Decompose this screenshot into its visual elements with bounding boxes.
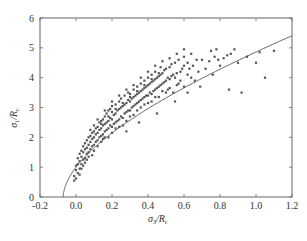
data-point: [102, 133, 104, 135]
data-point: [129, 96, 131, 98]
data-point: [93, 144, 95, 146]
data-point: [179, 71, 181, 73]
data-point: [138, 121, 140, 123]
data-point: [158, 72, 160, 74]
data-point: [107, 120, 109, 122]
data-point: [255, 62, 257, 64]
data-point: [199, 86, 201, 88]
data-point: [161, 72, 163, 74]
data-point: [111, 100, 113, 102]
data-point: [75, 169, 77, 171]
y-tick-label: 5: [29, 42, 34, 53]
data-point: [84, 162, 86, 164]
data-point: [120, 97, 122, 99]
data-point: [80, 156, 82, 158]
data-point: [176, 84, 178, 86]
data-point: [97, 126, 99, 128]
data-point: [147, 102, 149, 104]
data-point: [237, 62, 239, 64]
data-point: [86, 147, 88, 149]
data-point: [111, 105, 113, 107]
data-point: [88, 156, 90, 158]
data-point: [115, 112, 117, 114]
data-point: [75, 177, 77, 179]
y-tick-label: 6: [29, 13, 34, 24]
data-point: [169, 66, 171, 68]
data-point: [223, 57, 225, 59]
data-point: [196, 59, 198, 61]
data-point: [187, 91, 189, 93]
data-point: [97, 139, 99, 141]
data-point: [183, 56, 185, 58]
data-point: [106, 112, 108, 114]
data-point: [187, 62, 189, 64]
data-point: [133, 89, 135, 91]
x-tick-label: 1.0: [250, 200, 263, 211]
data-point: [122, 102, 124, 104]
data-point: [201, 59, 203, 61]
data-point: [161, 90, 163, 92]
data-point: [136, 109, 138, 111]
data-point: [183, 65, 185, 67]
data-point: [188, 68, 190, 70]
data-point: [178, 59, 180, 61]
data-point: [102, 118, 104, 120]
data-point: [197, 71, 199, 73]
data-point: [89, 135, 91, 137]
data-point: [86, 159, 88, 161]
data-point: [89, 129, 91, 131]
data-point: [169, 78, 171, 80]
data-point: [151, 100, 153, 102]
data-point: [79, 153, 81, 155]
data-point: [91, 154, 93, 156]
data-point: [140, 83, 142, 85]
data-point: [217, 59, 219, 61]
data-point: [210, 50, 212, 52]
data-point: [151, 93, 153, 95]
data-point: [97, 118, 99, 120]
data-point: [82, 151, 84, 153]
data-point: [125, 89, 127, 91]
data-point: [125, 130, 127, 132]
data-points: [73, 48, 275, 181]
data-point: [100, 127, 102, 129]
data-point: [259, 51, 261, 53]
data-point: [104, 115, 106, 117]
data-point: [118, 100, 120, 102]
data-point: [118, 94, 120, 96]
data-point: [154, 71, 156, 73]
data-point: [104, 109, 106, 111]
data-point: [154, 96, 156, 98]
data-point: [140, 106, 142, 108]
data-point: [109, 108, 111, 110]
data-point: [151, 74, 153, 76]
data-point: [111, 126, 113, 128]
data-point: [183, 48, 185, 50]
data-point: [161, 60, 163, 62]
data-point: [233, 48, 235, 50]
data-point: [151, 78, 153, 80]
data-point: [212, 74, 214, 76]
x-tick-label: -0.2: [32, 200, 48, 211]
data-point: [165, 80, 167, 82]
data-point: [172, 74, 174, 76]
data-point: [181, 68, 183, 70]
x-tick-labels: -0.20.00.20.40.60.81.01.2: [32, 200, 298, 211]
data-point: [147, 94, 149, 96]
data-point: [176, 53, 178, 55]
data-point: [129, 109, 131, 111]
data-point: [111, 118, 113, 120]
data-point: [143, 80, 145, 82]
scatter-chart: -0.20.00.20.40.60.81.01.2 0123456 σ3/Rc …: [0, 0, 307, 241]
data-point: [82, 165, 84, 167]
y-tick-label: 2: [29, 132, 34, 143]
x-tick-label: 0.2: [106, 200, 119, 211]
data-point: [174, 77, 176, 79]
data-point: [156, 112, 158, 114]
data-point: [93, 130, 95, 132]
x-tick-label: 0.6: [178, 200, 191, 211]
data-point: [124, 94, 126, 96]
data-point: [165, 68, 167, 70]
data-point: [115, 103, 117, 105]
data-point: [80, 168, 82, 170]
